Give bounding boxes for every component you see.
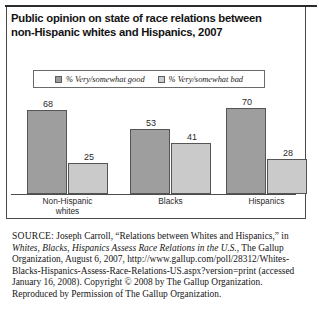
bar-value-bad-blacks: 41 xyxy=(172,132,212,142)
legend-label-good: % Very/somewhat good xyxy=(66,75,145,84)
legend-item-good: % Very/somewhat good xyxy=(55,75,145,84)
legend-label-bad: % Very/somewhat bad xyxy=(169,75,243,84)
bar-group-non-hispanic-whites: 68 25 Non-Hispanic whites xyxy=(27,96,111,194)
category-label-line-1: Non-Hispanic xyxy=(43,196,93,206)
bar-good-hispanics: 70 xyxy=(226,108,266,194)
source-italic-work-title: Whites, Blacks, Hispanics Assess Race Re… xyxy=(12,243,239,253)
category-label-blacks: Blacks xyxy=(122,197,219,207)
bar-value-bad-non-hispanic-whites: 25 xyxy=(69,152,109,162)
category-label-line-1: Blacks xyxy=(158,196,182,206)
figure-page: Public opinion on state of race relation… xyxy=(0,0,319,322)
category-label-non-hispanic-whites: Non-Hispanic whites xyxy=(19,197,116,216)
bar-group-hispanics: 70 28 Hispanics xyxy=(226,96,310,194)
category-label-hispanics: Hispanics xyxy=(218,197,315,207)
bar-bad-hispanics: 28 xyxy=(267,159,307,194)
bar-value-good-blacks: 53 xyxy=(131,118,171,128)
legend-item-bad: % Very/somewhat bad xyxy=(158,75,243,84)
category-label-line-2: whites xyxy=(19,207,116,217)
bar-value-good-hispanics: 70 xyxy=(227,97,267,107)
source-text-before: Joseph Carroll, “Relations between White… xyxy=(54,231,289,241)
bar-value-good-non-hispanic-whites: 68 xyxy=(28,99,68,109)
chart-legend: % Very/somewhat good % Very/somewhat bad xyxy=(33,70,265,88)
bar-good-non-hispanic-whites: 68 xyxy=(27,110,67,194)
figure-title: Public opinion on state of race relation… xyxy=(11,11,279,39)
figure-title-line-2: non-Hispanic whites and Hispanics, 2007 xyxy=(11,25,279,39)
bar-group-blacks: 53 41 Blacks xyxy=(130,96,214,194)
bar-bad-blacks: 41 xyxy=(171,143,211,194)
bar-value-bad-hispanics: 28 xyxy=(268,148,308,158)
legend-swatch-bad-icon xyxy=(158,76,165,83)
figure-title-line-1: Public opinion on state of race relation… xyxy=(11,12,262,24)
bar-bad-non-hispanic-whites: 25 xyxy=(68,163,108,194)
bar-chart-plot: 68 25 Non-Hispanic whites 53 41 Blacks xyxy=(11,96,299,206)
source-kicker: SOURCE: xyxy=(12,230,54,241)
source-note: SOURCE: Joseph Carroll, “Relations betwe… xyxy=(12,230,308,300)
bar-good-blacks: 53 xyxy=(130,129,170,194)
legend-swatch-good-icon xyxy=(55,76,62,83)
category-label-line-1: Hispanics xyxy=(249,196,285,206)
